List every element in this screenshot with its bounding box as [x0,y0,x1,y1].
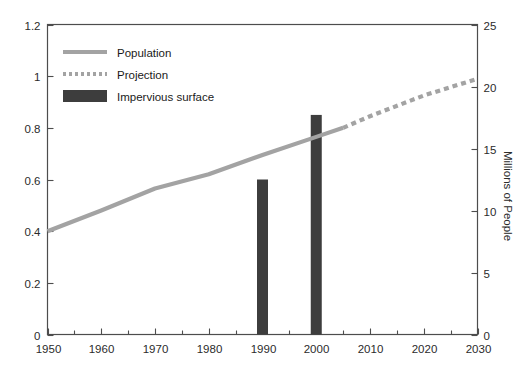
legend-label: Impervious surface [117,91,214,103]
bar [257,180,268,335]
chart-figure: 195019601970198019902000201020202030 00.… [0,0,514,374]
y-left-tick-label: 0 [34,330,40,342]
y-axis-right-ticks [472,26,478,336]
y-left-tick-label: 1.2 [25,20,41,32]
y-right-tick-label: 10 [484,206,497,218]
x-tick-label: 2020 [412,343,438,355]
y-axis-left-tick-labels: 00.20.40.60.811.2 [25,20,42,342]
y-right-tick-label: 15 [484,144,497,156]
y-axis-right-title: Millions of People [502,151,514,241]
y-left-tick-label: 0.2 [25,278,41,290]
chart-canvas: 195019601970198019902000201020202030 00.… [0,0,514,374]
x-tick-label: 1990 [251,343,277,355]
legend-label: Projection [117,69,168,81]
chart-legend: PopulationProjectionImpervious surface [63,47,214,103]
legend-label: Population [117,47,171,59]
y-right-tick-label: 20 [484,82,497,94]
x-tick-label: 2000 [304,343,330,355]
x-tick-label: 1970 [143,343,169,355]
legend-swatch-impervious-surface [63,90,107,102]
x-tick-label: 2010 [358,343,384,355]
x-tick-label: 1950 [36,343,62,355]
y-right-tick-label: 5 [484,268,490,280]
x-axis-tick-labels: 195019601970198019902000201020202030 [36,343,492,355]
bar [311,115,322,335]
x-tick-label: 1960 [89,343,115,355]
y-right-tick-label: 25 [484,20,497,32]
population-line [48,128,344,231]
y-axis-right-tick-labels: 0510152025 [484,20,497,342]
x-tick-label: 1980 [197,343,223,355]
projection-line [343,79,477,128]
y-left-tick-label: 0.8 [25,123,41,135]
x-tick-label: 2030 [466,343,492,355]
y-right-tick-label: 0 [484,330,490,342]
y-left-tick-label: 1 [34,71,40,83]
y-axis-left-ticks [48,26,54,336]
y-left-tick-label: 0.6 [25,175,41,187]
y-left-tick-label: 0.4 [25,226,42,238]
